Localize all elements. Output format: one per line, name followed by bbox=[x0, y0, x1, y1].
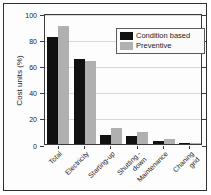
legend-label-preventive: Preventive bbox=[136, 42, 171, 50]
bar-chart-plot-area: Cost units (%) Condition based Preventiv… bbox=[44, 14, 202, 145]
y-tick-label: 60 bbox=[17, 64, 37, 71]
y-tick-mark bbox=[40, 119, 44, 120]
x-tick-mark bbox=[58, 146, 59, 149]
y-tick-label: 20 bbox=[17, 116, 37, 123]
y-tick-mark bbox=[40, 15, 44, 16]
legend-swatch-condition-based bbox=[120, 32, 133, 40]
gridline-100 bbox=[45, 15, 201, 16]
y-tick-mark bbox=[40, 67, 44, 68]
y-tick-label: 100 bbox=[17, 12, 37, 19]
y-tick-mark-right bbox=[202, 119, 206, 120]
bar-preventive-4 bbox=[164, 139, 175, 144]
y-tick-mark-right bbox=[202, 146, 206, 147]
legend-label-condition-based: Condition based bbox=[136, 32, 190, 40]
legend-swatch-preventive bbox=[120, 42, 133, 50]
y-tick-mark-right bbox=[202, 93, 206, 94]
figure-frame: Cost units (%) Condition based Preventiv… bbox=[3, 3, 207, 191]
legend-entry-condition-based: Condition based bbox=[120, 31, 201, 41]
x-tick-mark bbox=[137, 146, 138, 149]
bar-condition-based-0 bbox=[47, 37, 58, 144]
y-tick-label: 40 bbox=[17, 90, 37, 97]
bar-condition-based-2 bbox=[100, 135, 111, 144]
bar-condition-based-5 bbox=[179, 143, 190, 144]
bar-preventive-1 bbox=[85, 61, 96, 144]
bar-condition-based-4 bbox=[153, 141, 164, 144]
bar-condition-based-3 bbox=[126, 136, 137, 144]
legend-entry-preventive: Preventive bbox=[120, 41, 201, 51]
bar-preventive-3 bbox=[137, 132, 148, 144]
legend: Condition based Preventive bbox=[116, 28, 205, 54]
y-tick-mark-right bbox=[202, 67, 206, 68]
bar-preventive-2 bbox=[111, 128, 122, 144]
y-tick-mark bbox=[40, 41, 44, 42]
y-tick-mark-right bbox=[202, 15, 206, 16]
y-tick-mark bbox=[40, 93, 44, 94]
y-tick-label: 0 bbox=[17, 143, 37, 150]
y-axis-label: Cost units (%) bbox=[16, 15, 24, 146]
y-tick-label: 80 bbox=[17, 38, 37, 45]
bar-preventive-5 bbox=[190, 143, 201, 144]
y-tick-mark bbox=[40, 146, 44, 147]
bar-condition-based-1 bbox=[74, 59, 85, 144]
bar-preventive-0 bbox=[58, 26, 69, 144]
